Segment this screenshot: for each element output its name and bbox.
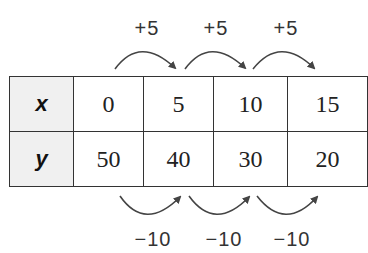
table-cell: 30 [214, 132, 288, 187]
xy-table: x 0 5 10 15 y 50 40 30 20 [9, 76, 368, 187]
bottom-change-label-2: −10 [206, 228, 243, 251]
rate-of-change-diagram: +5 +5 +5 x 0 5 10 15 y 50 40 30 20 [0, 0, 368, 253]
row-header-x: x [10, 77, 74, 132]
table-row-y: y 50 40 30 20 [10, 132, 368, 187]
bottom-arrow-3 [257, 196, 317, 214]
table-cell: 15 [288, 77, 368, 132]
table-row-x: x 0 5 10 15 [10, 77, 368, 132]
table-cell: 40 [144, 132, 214, 187]
table-cell: 0 [74, 77, 144, 132]
table-cell: 20 [288, 132, 368, 187]
row-header-y: y [10, 132, 74, 187]
bottom-arrow-1 [120, 196, 180, 214]
top-arrow-3 [253, 52, 314, 69]
bottom-change-label-3: −10 [274, 228, 311, 251]
table-cell: 5 [144, 77, 214, 132]
top-arrow-2 [185, 52, 245, 69]
top-arrow-1 [115, 52, 175, 69]
table-cell: 50 [74, 132, 144, 187]
bottom-change-label-1: −10 [135, 228, 172, 251]
table-cell: 10 [214, 77, 288, 132]
bottom-arrow-2 [189, 196, 249, 214]
